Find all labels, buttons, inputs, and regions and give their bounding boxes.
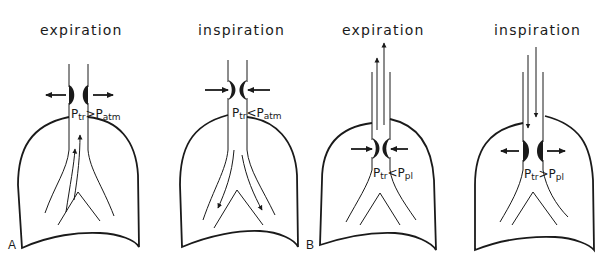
pressure-label: Ptr>Ppl: [524, 167, 564, 182]
trachea: [500, 72, 568, 225]
lung-outline: [320, 119, 436, 250]
panel-b-expiration: expiration Ptr<Ppl B: [306, 22, 436, 252]
trachea: [203, 60, 275, 228]
airway-wall-bulge-inward: [228, 80, 247, 100]
panel-title: expiration: [40, 22, 123, 38]
panel-title: inspiration: [494, 22, 581, 38]
panel-a-inspiration: inspiration Ptr<Patm: [180, 22, 298, 247]
airway-wall-bulge-outward: [523, 140, 543, 162]
airflow-arrows-outward: [377, 43, 384, 130]
panel-title: inspiration: [198, 22, 285, 38]
airway-dynamics-diagram: expiration Ptr>Patm A inspiration: [0, 0, 602, 263]
lung-outline: [18, 117, 139, 248]
pressure-label: Ptr<Ppl: [373, 166, 413, 181]
panel-a-expiration: expiration Ptr>Patm A: [8, 22, 139, 252]
lung-outline: [180, 115, 298, 247]
panel-letter-b: B: [306, 238, 314, 252]
pressure-label: Ptr>Patm: [71, 107, 121, 122]
airflow-arrows-inward: [528, 47, 536, 128]
pressure-label: Ptr<Patm: [232, 106, 282, 121]
airway-wall-bulge-inward: [372, 138, 390, 159]
panel-title: expiration: [342, 22, 425, 38]
lung-outline: [475, 116, 594, 250]
airway-wall-bulge-outward: [69, 85, 88, 105]
panel-letter-a: A: [8, 238, 16, 252]
airflow-arrows-inward: [218, 150, 262, 210]
panel-b-inspiration: inspiration Ptr>Ppl: [475, 22, 594, 250]
